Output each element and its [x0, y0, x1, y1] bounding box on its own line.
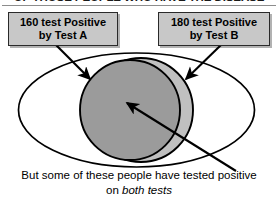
venn-diagram-figure: OF THOSE PEOPLE WHO HAVE THE DISEASE 160… [0, 0, 278, 202]
figure-caption: But some of these people have tested pos… [0, 168, 278, 198]
callout-test-a: 160 test Positive by Test A [8, 12, 118, 46]
callout-test-a-line2: by Test A [9, 29, 117, 42]
caption-line2-prefix: on [106, 184, 122, 196]
callout-test-b-line2: by Test B [159, 29, 269, 42]
callout-test-a-line1: 160 test Positive [9, 16, 117, 29]
callout-test-b: 180 test Positive by Test B [158, 12, 270, 46]
caption-line2: on both tests [0, 183, 278, 198]
caption-line2-emphasis: both tests [122, 184, 172, 196]
set-circle-test-a [80, 60, 180, 160]
caption-line1: But some of these people have tested pos… [0, 168, 278, 183]
callout-test-b-line1: 180 test Positive [159, 16, 269, 29]
